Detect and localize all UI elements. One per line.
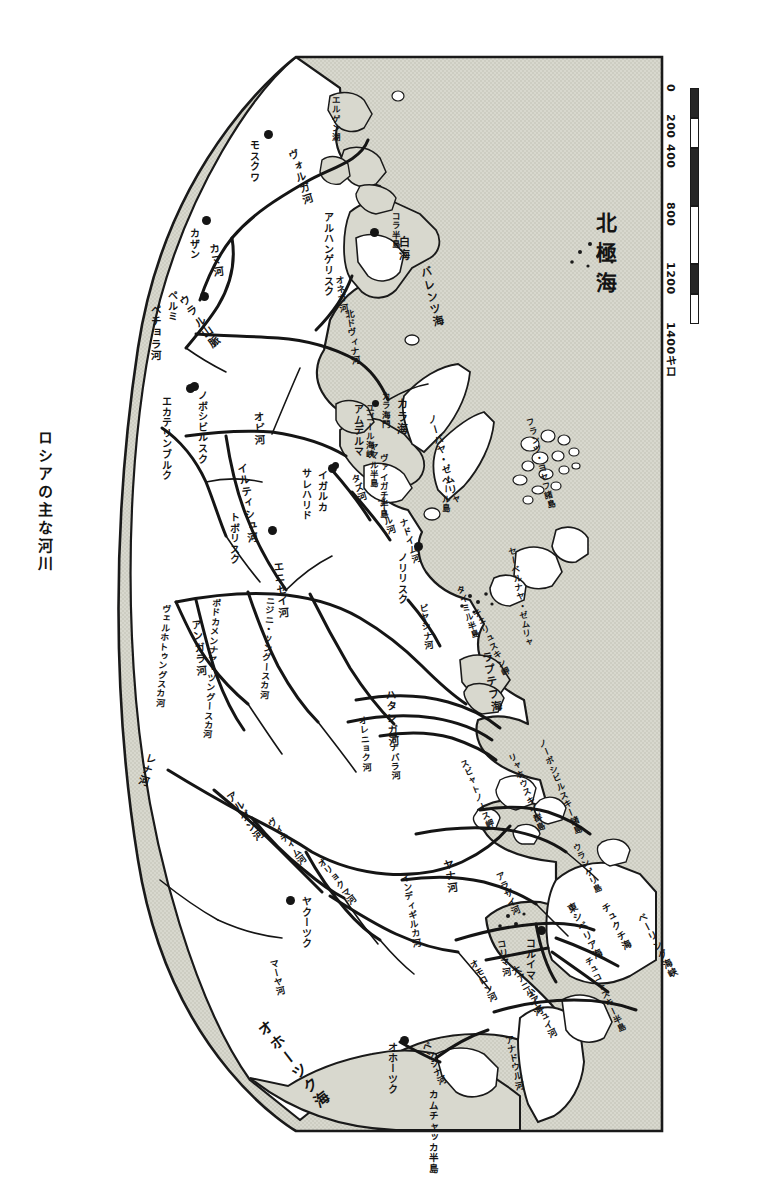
city-dot-moscow (264, 130, 273, 139)
city-dot-tobolsk (268, 526, 277, 535)
map-figure: ロシアの主な河川 0 200 400 800 1200 1400キロ 北極海 オ… (0, 0, 773, 1186)
city-dot-arkhangelsk (370, 228, 379, 237)
city-dot-novosibirsk (190, 382, 199, 391)
city-dot-perm (200, 292, 209, 301)
city-dot-norilsk (414, 542, 423, 551)
city-dot-amderma (372, 400, 379, 407)
map-canvas (0, 0, 773, 1186)
city-dot-kolyma-town (537, 926, 546, 935)
city-dot-kazan (202, 216, 211, 225)
city-dot-yakutsk (286, 896, 295, 905)
map-body (0, 0, 773, 1186)
city-dot-okhotsk (400, 1036, 409, 1045)
city-dot-igarka (332, 462, 339, 469)
